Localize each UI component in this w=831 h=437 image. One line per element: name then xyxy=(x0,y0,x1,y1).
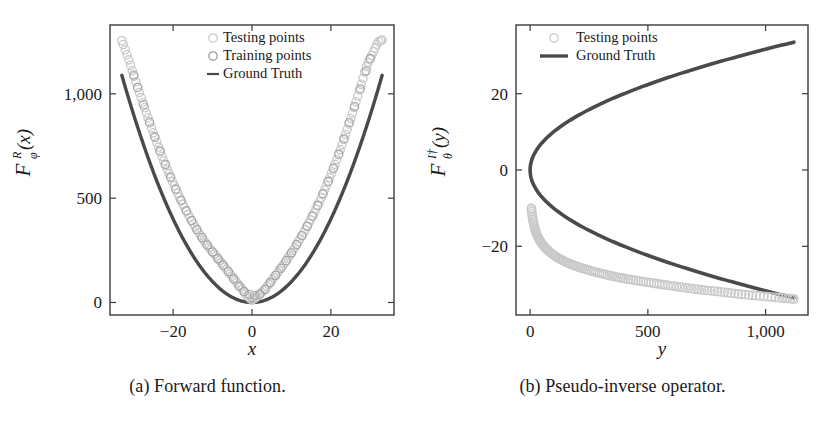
data-point-testing xyxy=(121,46,129,54)
data-point-training xyxy=(134,83,142,91)
x-tick-label: 500 xyxy=(635,322,661,341)
axis-tick-labels-b: 05001,000−20020 xyxy=(481,85,784,341)
legend-marker-circle xyxy=(209,34,217,42)
legend-label: Testing points xyxy=(223,29,305,45)
data-point-testing xyxy=(142,109,150,117)
y-axis-title-a-main: F xyxy=(11,163,35,177)
x-tick-label: 0 xyxy=(526,322,535,341)
y-tick-label: 20 xyxy=(491,85,508,104)
panel-a-plot: −2002005001,000 x F φ R (x) T xyxy=(0,0,415,372)
y-axis-title-a: F φ R (x) xyxy=(10,129,40,178)
y-axis-title-a-arg: (x) xyxy=(13,129,35,150)
y-axis-title-b-sub: θ xyxy=(441,153,455,159)
legend-b: Testing pointsGround Truth xyxy=(540,29,658,63)
data-point-testing xyxy=(135,88,143,96)
series-ground-truth-a xyxy=(122,75,382,302)
x-axis-title-a: x xyxy=(247,338,257,359)
y-axis-title-b-main: F xyxy=(426,163,450,177)
legend-a: Testing pointsTraining pointsGround Trut… xyxy=(207,29,312,81)
panel-b-plot: 05001,000−20020 y F θ I† (y) Testing poi… xyxy=(415,0,830,372)
x-tick-label: 20 xyxy=(322,322,339,341)
panel-b: 05001,000−20020 y F θ I† (y) Testing poi… xyxy=(415,0,830,437)
data-point-testing xyxy=(126,61,134,69)
y-axis-title-a-sub: φ xyxy=(26,152,40,159)
x-tick-label: 1,000 xyxy=(746,322,784,341)
y-axis-title-b-arg: (y) xyxy=(428,127,450,148)
legend-label: Ground Truth xyxy=(223,65,303,81)
figure-container: −2002005001,000 x F φ R (x) T xyxy=(0,0,831,437)
x-tick-label: −20 xyxy=(160,322,187,341)
y-tick-label: 0 xyxy=(500,161,509,180)
legend-marker-circle xyxy=(209,52,217,60)
y-tick-label: 1,000 xyxy=(64,85,102,104)
legend-label: Training points xyxy=(223,47,312,63)
chart-a-svg: −2002005001,000 x F φ R (x) T xyxy=(0,0,415,372)
y-axis-title-a-sup: R xyxy=(10,151,24,160)
chart-b-svg: 05001,000−20020 y F θ I† (y) Testing poi… xyxy=(415,0,830,372)
y-tick-label: 500 xyxy=(77,189,103,208)
panel-a: −2002005001,000 x F φ R (x) T xyxy=(0,0,415,437)
data-point-testing xyxy=(333,156,341,164)
x-axis-title-b: y xyxy=(656,338,667,359)
axis-tick-labels-a: −2002005001,000 xyxy=(64,85,340,341)
plot-frame-b xyxy=(516,25,808,315)
series-training-points-a xyxy=(130,54,375,299)
y-tick-label: 0 xyxy=(94,293,103,312)
y-axis-title-b: F θ I† (y) xyxy=(425,127,455,178)
data-point-testing xyxy=(125,56,133,64)
data-point-testing xyxy=(123,51,131,59)
caption-a: (a) Forward function. xyxy=(0,376,415,397)
caption-b: (b) Pseudo-inverse operator. xyxy=(415,376,830,397)
legend-label: Ground Truth xyxy=(576,47,656,63)
legend-label: Testing points xyxy=(576,29,658,45)
legend-marker-circle xyxy=(550,34,558,42)
axis-ticks-b xyxy=(516,25,808,315)
y-axis-title-b-sup: I† xyxy=(425,148,439,160)
y-tick-label: −20 xyxy=(481,237,508,256)
